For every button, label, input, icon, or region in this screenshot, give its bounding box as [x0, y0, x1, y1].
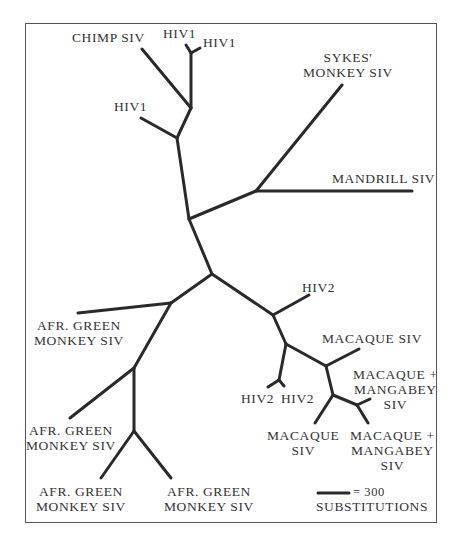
label-mm-a-line3: SIV — [353, 397, 438, 412]
scale-bar-unit: SUBSTITUTIONS — [316, 499, 428, 514]
label-hiv2-pair-b: HIV2 — [281, 391, 314, 406]
branch-agm-1 — [78, 303, 171, 313]
label-agm-2-line2: MONKEY SIV — [26, 438, 116, 453]
branch-node-b-to-c — [177, 138, 189, 219]
branch-central-trunk — [189, 219, 212, 274]
label-sykes-line2: MONKEY SIV — [303, 65, 393, 80]
branch-macaque-lower — [315, 395, 333, 423]
branch-agm-4 — [134, 431, 171, 478]
label-agm-2: AFR. GREEN MONKEY SIV — [26, 423, 116, 453]
branch-sykes-monkey-siv — [256, 85, 342, 191]
label-agm-1: AFR. GREEN MONKEY SIV — [34, 318, 124, 348]
label-mm-a-line2: MANGABEY — [353, 382, 438, 397]
label-agm-3-line1: AFR. GREEN — [36, 484, 126, 499]
branch-macaque-siv-upper — [326, 349, 359, 366]
label-hiv1-top-b: HIV1 — [203, 35, 236, 50]
label-macaque-lower-line2: SIV — [267, 443, 339, 458]
label-hiv2-upper: HIV2 — [302, 280, 335, 295]
label-agm-1-line1: AFR. GREEN — [34, 318, 124, 333]
branch-to-macaque-node — [286, 344, 326, 366]
branch-hiv2-inner — [273, 315, 286, 344]
branch-chimp-siv — [142, 49, 191, 108]
label-hiv1-lower: HIV1 — [114, 99, 147, 114]
branch-hiv2-pair-stem — [279, 344, 286, 380]
branch-hiv1-tip-b — [191, 48, 200, 53]
branch-hiv2-pair-b — [279, 380, 284, 386]
label-macaque-lower-line1: MACAQUE — [267, 428, 339, 443]
branch-hiv1-lower — [141, 118, 177, 138]
label-agm-3-line2: MONKEY SIV — [36, 499, 126, 514]
branch-hiv2-pair-a — [268, 380, 279, 387]
branch-agm-inner — [134, 303, 171, 368]
label-mm-b-line3: SIV — [350, 458, 435, 473]
label-macaque-mangabey-b: MACAQUE + MANGABEY SIV — [350, 428, 435, 473]
label-mm-b-line1: MACAQUE + — [350, 428, 435, 443]
label-agm-2-line1: AFR. GREEN — [26, 423, 116, 438]
label-chimp-siv: CHIMP SIV — [72, 30, 145, 45]
label-macaque-siv-lower: MACAQUE SIV — [267, 428, 339, 458]
label-macaque-mangabey-a: MACAQUE + MANGABEY SIV — [353, 367, 438, 412]
branch-to-hiv2-node — [212, 274, 273, 315]
label-hiv2-pair-a: HIV2 — [241, 391, 274, 406]
label-mandrill-siv: MANDRILL SIV — [332, 171, 435, 186]
label-agm-4-line1: AFR. GREEN — [164, 484, 254, 499]
label-mm-b-line2: MANGABEY — [350, 443, 435, 458]
label-sykes-monkey-siv: SYKES' MONKEY SIV — [303, 50, 393, 80]
branch-hiv2-upper — [273, 295, 309, 315]
label-agm-1-line2: MONKEY SIV — [34, 333, 124, 348]
label-mm-a-line1: MACAQUE + — [353, 367, 438, 382]
scale-bar-value: = 300 — [353, 485, 385, 500]
branch-to-agm-node — [171, 274, 212, 303]
label-macaque-siv-upper: MACAQUE SIV — [322, 331, 422, 346]
label-hiv1-top-a: HIV1 — [163, 26, 196, 41]
label-agm-3: AFR. GREEN MONKEY SIV — [36, 484, 126, 514]
label-agm-4: AFR. GREEN MONKEY SIV — [164, 484, 254, 514]
branch-agm-2 — [70, 368, 134, 418]
branch-node-a-to-b — [177, 108, 191, 138]
label-agm-4-line2: MONKEY SIV — [164, 499, 254, 514]
branch-macaque-inner — [326, 366, 333, 395]
branch-to-sykes-mandrill-node — [189, 191, 256, 219]
label-sykes-line1: SYKES' — [303, 50, 393, 65]
